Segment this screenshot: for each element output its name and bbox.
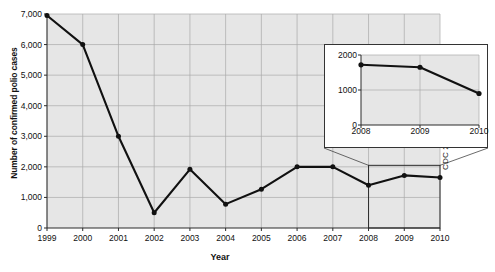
x-axis-title: Year bbox=[0, 252, 440, 262]
y-tick-label: 7,000 bbox=[0, 9, 42, 19]
inset-x-tick-label: 2009 bbox=[398, 126, 442, 136]
y-tick-label: 0 bbox=[0, 223, 42, 233]
y-tick-label: 2,000 bbox=[0, 162, 42, 172]
y-tick-label: 4,000 bbox=[0, 101, 42, 111]
x-tick-label: 2010 bbox=[417, 233, 463, 243]
inset-x-tick-label: 2008 bbox=[339, 126, 383, 136]
inset-y-tick-label: 1000 bbox=[325, 85, 357, 95]
y-tick-label: 3,000 bbox=[0, 131, 42, 141]
y-tick-label: 1,000 bbox=[0, 192, 42, 202]
inset-x-tick-label: 2010 bbox=[457, 126, 495, 136]
inset-plot-area bbox=[358, 55, 482, 128]
inset-detail-chart: 010002000 200820092010 bbox=[324, 44, 488, 148]
inset-y-tick-label: 2000 bbox=[325, 50, 357, 60]
polio-cases-figure: Number of confirmed polio cases Year 01,… bbox=[0, 0, 495, 272]
y-tick-label: 6,000 bbox=[0, 40, 42, 50]
y-tick-label: 5,000 bbox=[0, 70, 42, 80]
